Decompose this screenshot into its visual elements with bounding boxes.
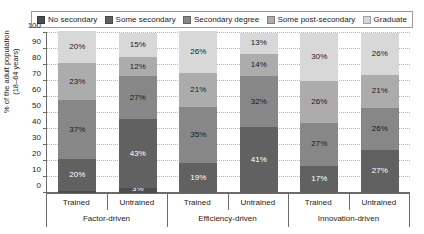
- y-axis-title-line1: % of the adult population: [2, 30, 11, 113]
- y-axis-tick-label: 50: [32, 102, 41, 110]
- bar-segment-label: 27%: [311, 140, 327, 148]
- bar-segment[interactable]: 32%: [240, 76, 278, 127]
- bar-segment[interactable]: 3%: [119, 188, 157, 193]
- category-label: Trained: [46, 194, 107, 210]
- bar-segment-label: 27%: [130, 94, 146, 102]
- legend-item-label: Some secondary: [116, 16, 176, 24]
- y-axis-title: % of the adult population (18–64 years): [2, 30, 20, 113]
- axis-start-separator: [46, 194, 47, 227]
- bar-segment-label: 20%: [69, 171, 85, 179]
- bar-slot: 0%17%27%26%30%: [289, 33, 350, 193]
- stacked-bar[interactable]: 0%27%26%21%26%: [361, 33, 399, 193]
- bar-segment-label: 21%: [190, 86, 206, 94]
- chart-root: No secondarySome secondarySecondary degr…: [0, 0, 424, 234]
- legend-item[interactable]: Secondary degree: [183, 16, 259, 24]
- legend-item-label: Some post-secondary: [278, 16, 356, 24]
- bar-segment[interactable]: 19%: [179, 163, 217, 193]
- group-separator: [288, 194, 289, 227]
- bar-segment[interactable]: 14%: [240, 54, 278, 76]
- axis-separator: [228, 194, 229, 210]
- category-axis-group: TrainedUntrained: [167, 194, 288, 210]
- bar-segment[interactable]: 17%: [300, 166, 338, 193]
- bar-segment-label: 14%: [251, 61, 267, 69]
- bar-segment[interactable]: 20%: [58, 31, 96, 63]
- legend-item-label: Graduate: [374, 16, 407, 24]
- stacked-bar[interactable]: 1%20%37%23%20%: [58, 33, 96, 193]
- axis-separator: [107, 194, 108, 210]
- bar-segment-label: 20%: [69, 43, 85, 51]
- legend-swatch-icon: [37, 16, 45, 24]
- bar-segment-label: 27%: [372, 167, 388, 175]
- legend-item-label: Secondary degree: [194, 16, 259, 24]
- bar-segment-label: 23%: [69, 78, 85, 86]
- group-label: Efficiency-driven: [167, 210, 288, 227]
- bar-group: 0%19%35%21%26%0%41%32%14%13%: [168, 33, 289, 193]
- bar-segment[interactable]: 26%: [300, 81, 338, 123]
- bar-segment-label: 13%: [251, 39, 267, 47]
- bar-segment[interactable]: 37%: [58, 100, 96, 159]
- bar-segment[interactable]: 43%: [119, 119, 157, 188]
- bar-segment[interactable]: 41%: [240, 127, 278, 193]
- bar-segment-label: 41%: [251, 156, 267, 164]
- category-axis-group: TrainedUntrained: [288, 194, 409, 210]
- bar-segment[interactable]: 26%: [361, 108, 399, 150]
- bar-segment[interactable]: 35%: [179, 107, 217, 163]
- bar-group: 1%20%37%23%20%3%43%27%12%15%: [47, 33, 168, 193]
- legend-swatch-icon: [363, 16, 371, 24]
- bar-segment[interactable]: 1%: [58, 191, 96, 193]
- bar-segment-label: 21%: [372, 87, 388, 95]
- bar-segment[interactable]: 12%: [119, 57, 157, 76]
- group-label: Innovation-driven: [288, 210, 409, 227]
- category-axis: TrainedUntrainedTrainedUntrainedTrainedU…: [46, 194, 409, 210]
- bar-segment[interactable]: 27%: [300, 123, 338, 166]
- category-axis-group: TrainedUntrained: [46, 194, 167, 210]
- bar-segment-label: 17%: [311, 175, 327, 183]
- legend-item[interactable]: No secondary: [37, 16, 97, 24]
- bar-segment-label: 3%: [132, 188, 144, 193]
- stacked-bar[interactable]: 0%19%35%21%26%: [179, 33, 217, 193]
- category-label: Untrained: [349, 194, 410, 210]
- bar-segment-label: 26%: [311, 98, 327, 106]
- legend-swatch-icon: [105, 16, 113, 24]
- category-label: Trained: [288, 194, 349, 210]
- bar-segment[interactable]: 15%: [119, 33, 157, 57]
- bar-slot: 0%41%32%14%13%: [229, 33, 290, 193]
- stacked-bar[interactable]: 3%43%27%12%15%: [119, 33, 157, 193]
- y-axis-tick-label: 60: [32, 86, 41, 94]
- y-axis-tick-label: 80: [32, 54, 41, 62]
- legend-item[interactable]: Some secondary: [105, 16, 176, 24]
- bar-segment[interactable]: 27%: [361, 150, 399, 193]
- legend-item[interactable]: Graduate: [363, 16, 407, 24]
- bar-segment[interactable]: 27%: [119, 76, 157, 119]
- group-label: Factor-driven: [46, 210, 167, 227]
- bar-segment[interactable]: 21%: [361, 75, 399, 109]
- bar-segment-label: 26%: [372, 125, 388, 133]
- y-axis-tick-label: 70: [32, 70, 41, 78]
- bar-segment[interactable]: 23%: [58, 63, 96, 100]
- y-axis-tick-label: 90: [32, 38, 41, 46]
- y-axis-tick-label: 40: [32, 118, 41, 126]
- bar-segment-label: 12%: [130, 63, 146, 71]
- chart-legend: No secondarySome secondarySecondary degr…: [31, 11, 413, 28]
- stacked-bar[interactable]: 0%41%32%14%13%: [240, 33, 278, 193]
- bar-segment[interactable]: 21%: [179, 73, 217, 107]
- bar-segment-label: 19%: [190, 174, 206, 182]
- y-axis-tick-label: 30: [32, 134, 41, 142]
- plot-area: 0102030405060708090100 1%20%37%23%20%3%4…: [46, 33, 410, 194]
- bar-segment-label: 30%: [311, 53, 327, 61]
- y-axis-tick-label: 10: [32, 166, 41, 174]
- legend-item-label: No secondary: [48, 16, 97, 24]
- bar-groups: 1%20%37%23%20%3%43%27%12%15%0%19%35%21%2…: [47, 33, 410, 193]
- group-axis: Factor-drivenEfficiency-drivenInnovation…: [46, 210, 409, 227]
- bar-segment[interactable]: 26%: [179, 31, 217, 73]
- bar-slot: 0%27%26%21%26%: [350, 33, 411, 193]
- bar-segment[interactable]: 13%: [240, 33, 278, 54]
- category-label: Untrained: [107, 194, 168, 210]
- bar-segment[interactable]: 30%: [300, 33, 338, 81]
- bar-segment-label: 26%: [372, 50, 388, 58]
- group-separator: [167, 194, 168, 227]
- stacked-bar[interactable]: 0%17%27%26%30%: [300, 33, 338, 193]
- bar-segment[interactable]: 20%: [58, 159, 96, 191]
- legend-item[interactable]: Some post-secondary: [267, 16, 356, 24]
- bar-segment[interactable]: 26%: [361, 33, 399, 75]
